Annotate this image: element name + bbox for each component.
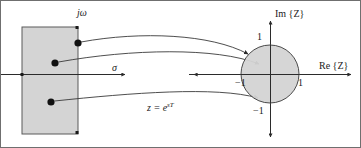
- zplane-tick-im-negative: −1: [253, 106, 264, 116]
- zplane-imaginary-axis-label: Im {Z}: [275, 9, 304, 19]
- map-arrow-middle: [59, 52, 260, 64]
- figure-canvas: [1, 1, 361, 148]
- pole-middle: [51, 59, 58, 66]
- mapping-equation-lhs: z = e: [147, 102, 167, 113]
- mapping-equation-exponent: sT: [167, 101, 174, 109]
- figure-splane-zplane-mapping: jω σ z = esT Im {Z} Re {Z} 1 −1 1 −1: [0, 0, 361, 148]
- splane-imaginary-axis-label: jω: [77, 8, 87, 18]
- map-arrow-lower: [55, 92, 259, 101]
- zplane-tick-re-positive: 1: [298, 78, 303, 88]
- pole-lower: [47, 98, 54, 105]
- splane-region-rect: [22, 27, 78, 134]
- splane-corner-tick-top: [76, 26, 79, 29]
- zplane-tick-im-positive: 1: [257, 32, 262, 42]
- pole-upper: [74, 39, 81, 46]
- splane-corner-tick-bottom: [76, 131, 79, 134]
- map-arrow-upper: [81, 36, 248, 54]
- zplane-real-axis-label: Re {Z}: [319, 61, 348, 71]
- mapping-equation: z = esT: [147, 102, 174, 113]
- zplane-tick-re-negative: −1: [235, 78, 246, 88]
- splane-real-axis-label: σ: [112, 63, 117, 73]
- splane-origin-tick: [21, 73, 24, 76]
